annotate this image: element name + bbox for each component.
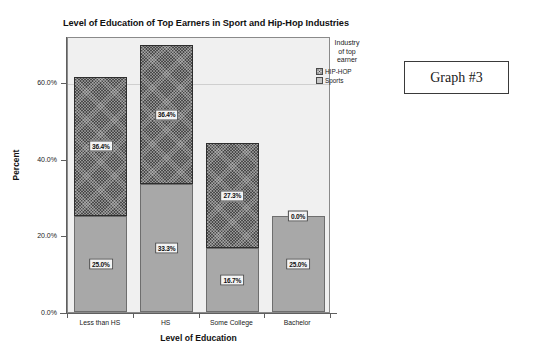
y-axis-tick-label: 0.0% xyxy=(11,309,57,317)
bar-group[interactable]: 33.3%36.4% xyxy=(140,36,193,312)
x-axis-tick xyxy=(330,313,331,318)
legend-label-hiphop: HIP-HOP xyxy=(325,68,352,76)
hiphop-swatch-icon xyxy=(316,68,323,75)
x-axis-tick xyxy=(199,313,200,318)
y-axis-tick-label: 20.0% xyxy=(11,232,57,240)
x-axis-tick-label: Less than HS xyxy=(79,319,120,327)
x-axis-tick-label: HS xyxy=(161,319,170,327)
legend-title-line-2: of top xyxy=(316,48,378,57)
legend-label-sports: Sports xyxy=(325,77,343,85)
bar-value-label-sports: 25.0% xyxy=(286,259,310,270)
chart-title: Level of Education of Top Earners in Spo… xyxy=(56,18,356,29)
graph-number-box: Graph #3 xyxy=(404,61,509,94)
bar-value-label-sports: 25.0% xyxy=(89,259,113,270)
x-axis-tick xyxy=(67,313,68,318)
bar-value-label-hiphop: 36.4% xyxy=(89,141,113,152)
bar-group[interactable]: 16.7%27.3% xyxy=(206,36,259,312)
y-axis-tick xyxy=(61,83,67,84)
x-axis-title: Level of Education xyxy=(67,333,330,343)
x-axis-tick xyxy=(133,313,134,318)
bar-group[interactable]: 25.0%36.4% xyxy=(74,36,127,312)
legend-title: Industry of top earner xyxy=(316,39,378,65)
y-axis-tick-label: 60.0% xyxy=(11,79,57,87)
bar-value-label-hiphop: 36.4% xyxy=(155,109,179,120)
legend-item-hiphop[interactable]: HIP-HOP xyxy=(316,68,378,76)
x-axis-tick-label: Bachelor xyxy=(284,319,311,327)
bar-value-label-hiphop: 0.0% xyxy=(288,211,308,222)
legend-title-line-1: Industry xyxy=(316,39,378,48)
legend: Industry of top earner HIP-HOP Sports xyxy=(316,39,378,85)
graph-number-label: Graph #3 xyxy=(430,70,483,86)
sports-swatch-icon xyxy=(316,77,323,84)
bar-value-label-sports: 16.7% xyxy=(221,275,245,286)
chart-scan-page: Level of Education of Top Earners in Spo… xyxy=(0,0,546,357)
plot-inner: 25.0%36.4%33.3%36.4%16.7%27.3%25.0%0.0% xyxy=(68,38,329,312)
y-axis-line xyxy=(66,37,67,314)
legend-item-sports[interactable]: Sports xyxy=(316,77,378,85)
y-axis-tick xyxy=(61,160,67,161)
bar-value-label-sports: 33.3% xyxy=(155,243,179,254)
x-axis-tick-label: Some College xyxy=(210,319,253,327)
legend-title-line-3: earner xyxy=(316,56,378,65)
y-axis-title: Percent xyxy=(11,125,21,205)
bar-value-label-hiphop: 27.3% xyxy=(221,190,245,201)
y-axis-tick xyxy=(61,236,67,237)
plot-area: 25.0%36.4%33.3%36.4%16.7%27.3%25.0%0.0% xyxy=(67,37,330,313)
x-axis-tick xyxy=(264,313,265,318)
